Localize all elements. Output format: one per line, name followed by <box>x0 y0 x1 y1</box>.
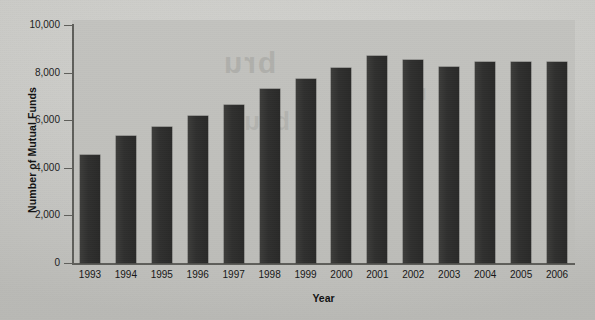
y-axis-tick <box>64 215 72 216</box>
x-axis-tick-label: 1997 <box>216 269 252 280</box>
y-axis-title: Number of Mutual Funds <box>26 55 38 245</box>
bar <box>152 127 172 263</box>
y-axis-tick-label: 0 <box>4 258 60 268</box>
bar-series <box>72 20 575 265</box>
x-axis-tick-label: 1993 <box>72 269 108 280</box>
bar <box>403 60 423 263</box>
bar <box>331 68 351 263</box>
bar <box>367 56 387 263</box>
bar <box>296 79 316 263</box>
bar <box>547 62 567 263</box>
y-axis-tick <box>64 263 72 264</box>
bar <box>260 89 280 263</box>
x-axis-title: Year <box>72 292 575 304</box>
bar <box>80 155 100 263</box>
x-axis-tick-label: 2000 <box>324 269 360 280</box>
bar <box>475 62 495 263</box>
y-axis-tick <box>64 168 72 169</box>
x-axis-tick-label: 2004 <box>467 269 503 280</box>
bar <box>224 105 244 263</box>
x-axis-tick-label: 2005 <box>503 269 539 280</box>
x-axis-tick-label: 2001 <box>359 269 395 280</box>
y-axis-tick <box>64 25 72 26</box>
x-axis-tick-label: 2003 <box>431 269 467 280</box>
bar <box>116 136 136 263</box>
y-axis-tick <box>64 73 72 74</box>
chart-screenshot: bru bru nt 10,0008,0006,0004,0002,0000 N… <box>0 0 595 320</box>
x-axis-tick-label: 2006 <box>539 269 575 280</box>
bar <box>511 62 531 263</box>
bar <box>188 116 208 263</box>
y-axis-tick-label: 10,000 <box>4 20 60 30</box>
x-axis-tick-label: 1995 <box>144 269 180 280</box>
bar <box>439 67 459 263</box>
x-axis-tick-label: 1996 <box>180 269 216 280</box>
x-axis-tick-label: 1999 <box>288 269 324 280</box>
x-axis-tick-label: 1998 <box>252 269 288 280</box>
y-axis-tick <box>64 120 72 121</box>
x-axis-tick-label: 2002 <box>395 269 431 280</box>
x-axis-tick-label: 1994 <box>108 269 144 280</box>
